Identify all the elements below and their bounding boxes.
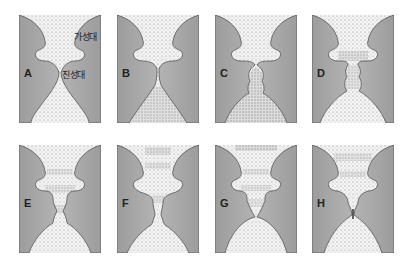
panel-label: C [220, 67, 228, 79]
larynx-section-f [117, 145, 199, 253]
panel-label: G [220, 197, 229, 209]
panel-a: A 가성대 진성대 [19, 15, 101, 123]
panel-h: H [312, 145, 394, 253]
panel-label: E [24, 197, 31, 209]
panel-c: C [215, 15, 297, 123]
panel-d: D [312, 15, 394, 123]
panel-label: A [24, 67, 32, 79]
panel-f: F [117, 145, 199, 253]
panel-label: H [317, 197, 325, 209]
panel-label: B [122, 67, 130, 79]
true-vocal-fold-label: 진성대 [62, 68, 85, 81]
panel-label: D [317, 67, 325, 79]
panel-b: B [117, 15, 199, 123]
panel-g: G [215, 145, 297, 253]
false-vocal-fold-label: 가성대 [74, 30, 97, 43]
panel-label: F [122, 197, 129, 209]
panel-e: E [19, 145, 101, 253]
